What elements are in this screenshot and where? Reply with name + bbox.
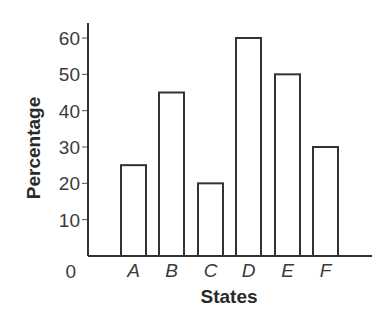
y-axis-ticks: 0102030405060 — [59, 28, 88, 282]
bar-A — [121, 165, 146, 256]
x-axis-labels: ABCDEF — [126, 260, 333, 281]
x-category-label: F — [320, 260, 333, 281]
y-tick-label: 30 — [59, 137, 80, 158]
bars — [121, 38, 338, 256]
y-tick-label: 40 — [59, 101, 80, 122]
bar-C — [198, 183, 223, 256]
y-tick-label: 0 — [65, 261, 76, 282]
x-category-label: E — [281, 260, 294, 281]
x-category-label: C — [204, 260, 218, 281]
bar-F — [313, 147, 338, 256]
x-category-label: A — [126, 260, 140, 281]
x-category-label: D — [242, 260, 256, 281]
y-tick-label: 50 — [59, 64, 80, 85]
bar-E — [275, 74, 300, 256]
y-tick-label: 20 — [59, 173, 80, 194]
bar-chart: 0102030405060 ABCDEF States Percentage — [0, 0, 386, 315]
x-category-label: B — [165, 260, 178, 281]
y-axis-title: Percentage — [23, 97, 44, 199]
bar-B — [159, 93, 184, 257]
y-tick-label: 60 — [59, 28, 80, 49]
x-axis-title: States — [200, 286, 257, 307]
y-tick-label: 10 — [59, 210, 80, 231]
bar-D — [236, 38, 261, 256]
